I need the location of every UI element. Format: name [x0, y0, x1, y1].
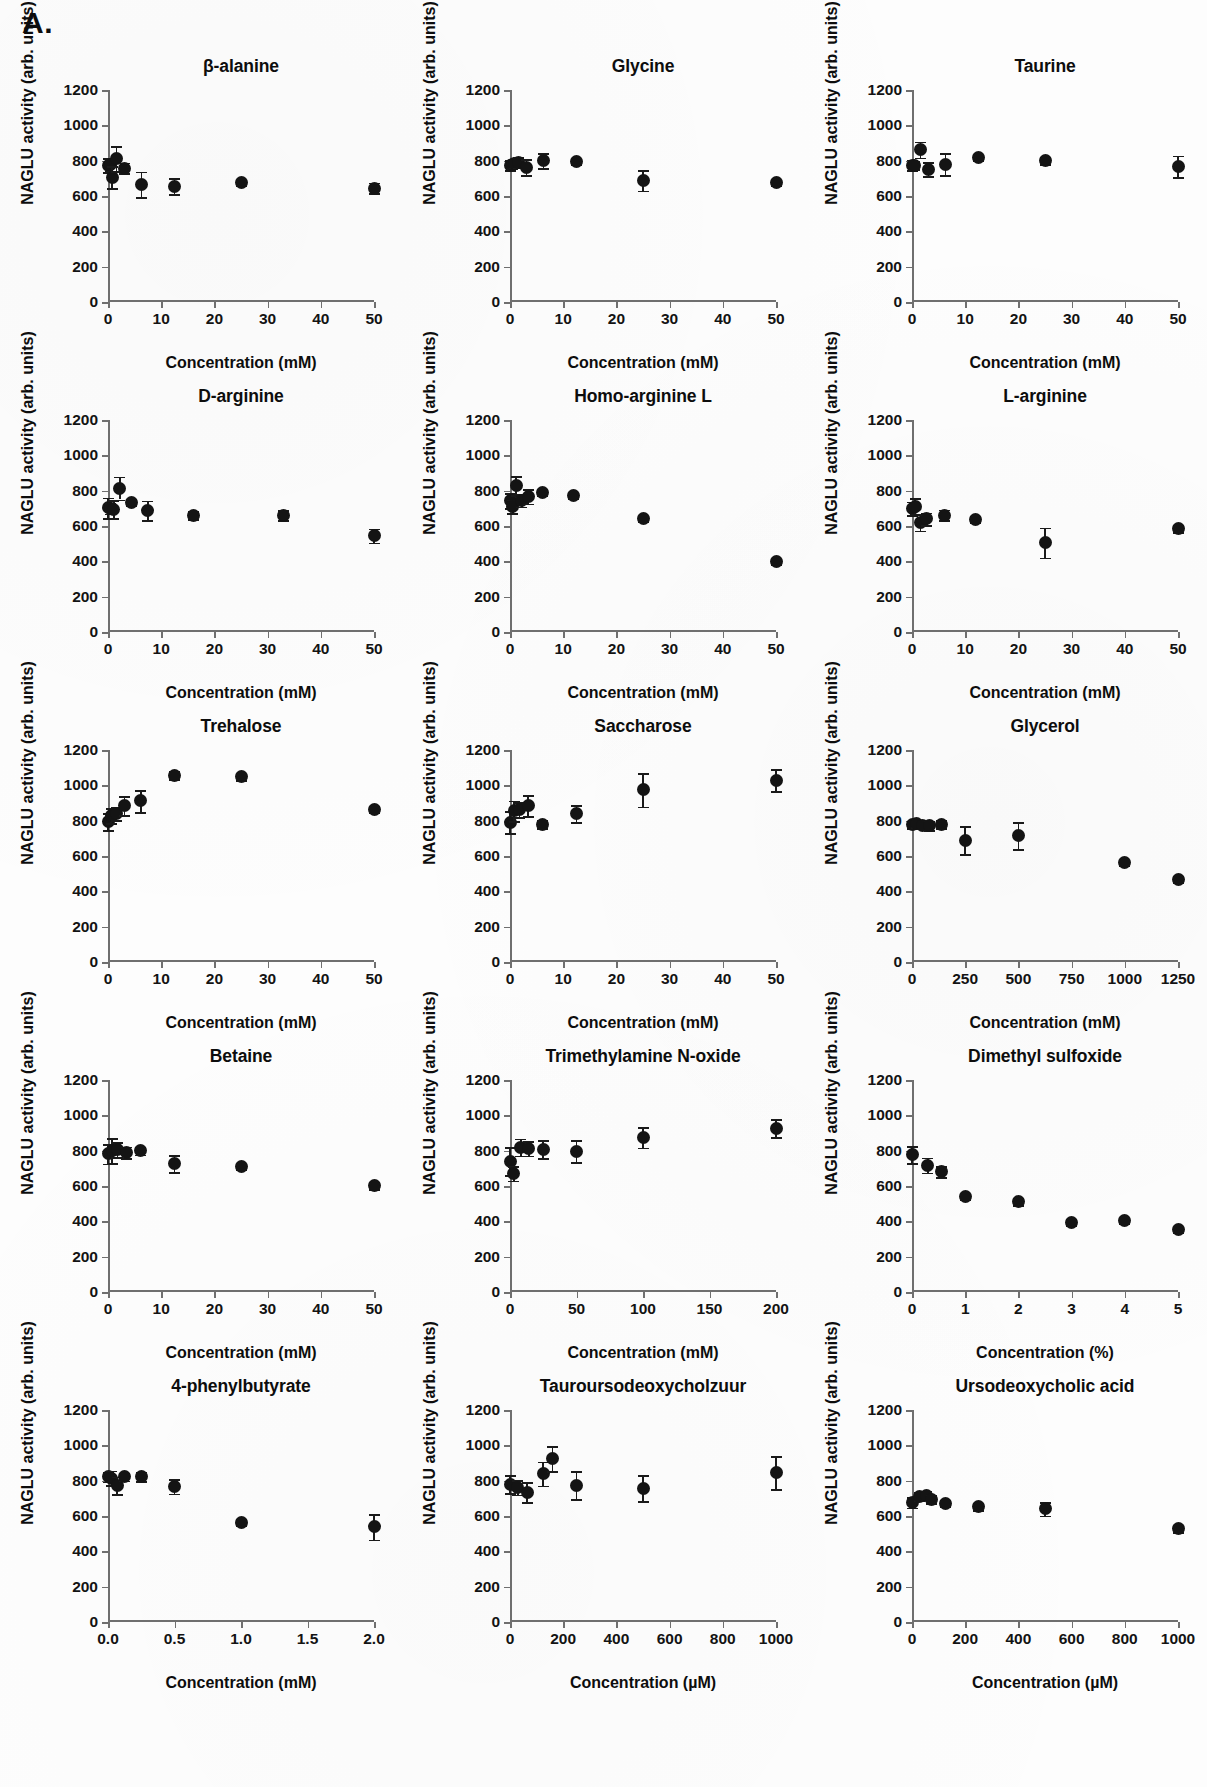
chart-panel-trehalose: TrehaloseNAGLU activity (arb. units)Conc…: [0, 708, 402, 1038]
error-bar-cap: [511, 476, 522, 478]
error-bar-cap: [522, 1502, 533, 1504]
error-bar-cap: [369, 1540, 380, 1542]
x-tick: [643, 1292, 645, 1298]
y-tick-label: 1200: [64, 1401, 98, 1419]
x-tick-label: 40: [1116, 640, 1133, 658]
y-tick: [102, 1221, 108, 1223]
y-tick-label: 800: [876, 482, 902, 500]
error-bar-cap: [142, 520, 153, 522]
panel-title-homo-arginine-l: Homo-arginine L: [488, 386, 798, 407]
x-tick-label: 10: [555, 970, 572, 988]
y-tick: [102, 1080, 108, 1082]
plot-area-glycine: 02004006008001000120001020304050: [510, 90, 776, 302]
y-tick-label: 0: [491, 1613, 500, 1631]
x-tick-label: 0.5: [164, 1630, 186, 1648]
x-tick-label: 0: [506, 970, 515, 988]
x-tick: [161, 962, 163, 968]
x-axis-title: Concentration (mM): [86, 1014, 396, 1032]
error-bar-cap: [547, 1446, 558, 1448]
x-tick: [1018, 632, 1020, 638]
y-tick-label: 0: [89, 293, 98, 311]
x-axis-line: [912, 300, 1178, 302]
x-tick: [723, 302, 725, 308]
y-tick: [504, 1115, 510, 1117]
x-tick-label: 600: [1059, 1630, 1085, 1648]
x-tick: [1072, 962, 1074, 968]
panel-title-l-arginine: L-arginine: [890, 386, 1200, 407]
error-bar-cap: [960, 826, 971, 828]
y-tick: [906, 891, 912, 893]
y-tick-label: 1200: [868, 1401, 902, 1419]
y-tick-label: 800: [876, 152, 902, 170]
error-bar-cap: [523, 795, 534, 797]
x-tick-label: 10: [957, 640, 974, 658]
y-axis-line: [108, 1080, 110, 1292]
y-tick: [906, 1080, 912, 1082]
y-tick: [906, 1410, 912, 1412]
x-tick: [1072, 302, 1074, 308]
plot-area-4-phenylbutyrate: 0200400600800100012000.00.51.01.52.0: [108, 1410, 374, 1622]
data-point: [537, 1467, 550, 1480]
x-tick-label: 500: [1005, 970, 1031, 988]
plot-area-trimethylamine-n-oxide: 020040060080010001200050100150200: [510, 1080, 776, 1292]
error-bar-cap: [108, 518, 119, 520]
error-bar-cap: [142, 501, 153, 503]
data-point: [637, 512, 650, 525]
x-tick-label: 20: [608, 640, 625, 658]
error-bar-cap: [135, 812, 146, 814]
y-tick-label: 1200: [64, 1071, 98, 1089]
x-tick-label: 250: [952, 970, 978, 988]
y-tick: [906, 267, 912, 269]
panel-title-tauroursodeoxycholzuur: Tauroursodeoxycholzuur: [488, 1376, 798, 1397]
x-tick-label: 20: [206, 970, 223, 988]
x-tick-label: 0: [908, 310, 917, 328]
x-tick-label: 50: [767, 970, 784, 988]
plot-area-homo-arginine-l: 02004006008001000120001020304050: [510, 420, 776, 632]
y-tick-label: 600: [474, 187, 500, 205]
y-tick-label: 800: [474, 812, 500, 830]
error-bar-cap: [114, 500, 125, 502]
x-tick-label: 20: [608, 310, 625, 328]
x-tick-label: 30: [259, 970, 276, 988]
y-tick-label: 400: [72, 1212, 98, 1230]
x-axis-line: [912, 1290, 1178, 1292]
error-bar-cap: [112, 1494, 123, 1496]
data-point: [1172, 522, 1185, 535]
y-tick-label: 1200: [868, 81, 902, 99]
error-bar-cap: [136, 172, 147, 174]
data-point: [118, 799, 131, 812]
data-point: [959, 834, 972, 847]
y-tick-label: 1000: [64, 1106, 98, 1124]
x-tick-label: 50: [568, 1300, 585, 1318]
data-point: [1039, 1502, 1052, 1515]
y-tick-label: 800: [876, 1142, 902, 1160]
x-tick-label: 20: [206, 310, 223, 328]
x-tick: [268, 302, 270, 308]
error-bar-cap: [119, 796, 130, 798]
y-axis-title: NAGLU activity (arb. units): [19, 323, 37, 543]
error-bar-cap: [111, 820, 122, 822]
y-tick-label: 1000: [466, 1436, 500, 1454]
error-bar-cap: [547, 1471, 558, 1473]
y-axis-line: [108, 750, 110, 962]
y-tick-label: 800: [72, 1142, 98, 1160]
x-tick: [776, 302, 778, 308]
y-tick-label: 400: [876, 552, 902, 570]
data-point: [1172, 1223, 1185, 1236]
error-bar-cap: [771, 1137, 782, 1139]
data-point: [637, 1482, 650, 1495]
error-bar-cap: [638, 1475, 649, 1477]
x-tick: [670, 302, 672, 308]
x-tick: [510, 1622, 512, 1628]
x-tick-label: 600: [657, 1630, 683, 1648]
data-point: [570, 807, 583, 820]
y-tick: [102, 891, 108, 893]
panel-title-saccharose: Saccharose: [488, 716, 798, 737]
error-bar-cap: [523, 504, 534, 506]
y-tick: [906, 455, 912, 457]
data-point: [522, 799, 535, 812]
data-point: [168, 1157, 181, 1170]
x-tick: [563, 962, 565, 968]
y-tick: [906, 196, 912, 198]
y-tick-label: 1200: [466, 81, 500, 99]
